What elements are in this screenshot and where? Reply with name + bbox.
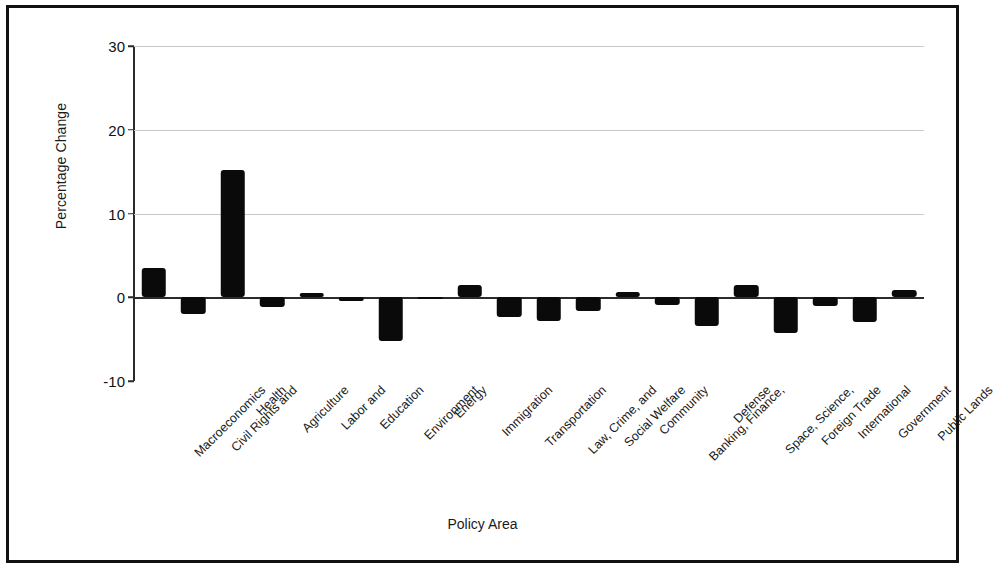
bar-group [529,46,569,381]
bar [695,297,719,325]
bar-group [648,46,688,381]
bar [734,285,758,298]
bar [221,170,245,297]
x-axis-category-label: Immigration [499,383,555,439]
bar-group [292,46,332,381]
y-axis-tick-label: -10 [103,373,125,390]
bar-group [885,46,925,381]
bar [616,292,640,297]
bar-chart: Percentage Change -100102030 Macroeconom… [9,8,956,560]
bar [813,297,837,305]
bar [379,297,403,341]
bar [181,297,205,314]
bar [260,297,284,307]
bar [892,290,916,298]
bar-series [134,46,924,381]
bar-group [569,46,609,381]
bar [418,297,442,299]
x-axis-category-label: Banking, Finance, [707,383,788,464]
bar [497,297,521,317]
bar [774,297,798,333]
bar-group [411,46,451,381]
bar [458,285,482,298]
plot-area: -100102030 [134,46,924,381]
y-axis-tick-label: 0 [117,289,125,306]
y-axis-tick-label: 30 [108,38,125,55]
bar [576,297,600,310]
bar [537,297,561,320]
bar-group [371,46,411,381]
y-axis-title: Percentage Change [53,56,69,276]
bar-group [806,46,846,381]
x-axis-category-labels: MacroeconomicsCivil Rights andHealthAgri… [134,383,924,513]
bar-group [608,46,648,381]
bar [655,297,679,305]
bar [853,297,877,322]
bar-group [766,46,806,381]
bar [142,268,166,297]
bar-group [727,46,767,381]
bar-group [332,46,372,381]
bar-group [174,46,214,381]
bar-group [687,46,727,381]
bar-group [450,46,490,381]
y-axis-tick-label: 10 [108,205,125,222]
bar-group [845,46,885,381]
bar-group [490,46,530,381]
figure-frame: Percentage Change -100102030 Macroeconom… [6,5,959,563]
bar-group [253,46,293,381]
x-axis-title: Policy Area [9,516,956,532]
bar [339,297,363,300]
y-axis-tick-label: 20 [108,121,125,138]
bar-group [213,46,253,381]
bar [300,293,324,297]
bar-group [134,46,174,381]
